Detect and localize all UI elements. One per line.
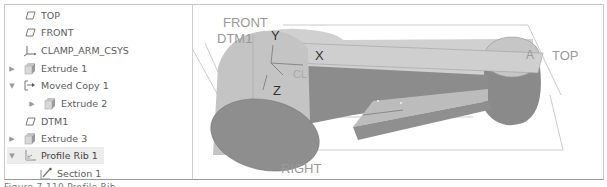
datum-label-dtm1: DTM1 xyxy=(217,31,252,46)
extrude-icon xyxy=(43,97,57,110)
collapse-arrow-icon[interactable]: ▼ xyxy=(7,82,17,90)
tree-item-dtm1[interactable]: DTM1 xyxy=(13,113,68,130)
datum-label-front: FRONT xyxy=(223,15,268,30)
tree-item-extrude-3[interactable]: ▶ Extrude 3 xyxy=(7,130,87,147)
datum-label-top: TOP xyxy=(552,48,579,63)
window-frame: TOP FRONT CLAMP_ARM_CSYS ▶ Extrude 1 ▼ xyxy=(4,4,604,180)
csys-axis-z-label: Z xyxy=(273,83,281,98)
csys-axis-x-label: X xyxy=(315,48,324,63)
model-tree: TOP FRONT CLAMP_ARM_CSYS ▶ Extrude 1 ▼ xyxy=(5,5,193,179)
tree-item-moved-copy-1[interactable]: ▼ Moved Copy 1 xyxy=(7,77,109,94)
expand-arrow-icon[interactable]: ▶ xyxy=(27,100,37,108)
figure-caption: Figure 7-110 Profile Rib xyxy=(4,180,116,187)
csys-axis-y-label: Y xyxy=(271,28,280,43)
tree-item-label: Profile Rib 1 xyxy=(41,150,98,161)
tree-item-label: TOP xyxy=(41,10,60,21)
tree-item-label: Extrude 1 xyxy=(41,63,87,74)
tree-item-label: Section 1 xyxy=(57,168,101,179)
sketch-section-icon xyxy=(39,167,53,179)
axis-label-a: A xyxy=(526,48,534,62)
tree-item-extrude-2[interactable]: ▶ Extrude 2 xyxy=(27,95,107,112)
tree-item-label: Moved Copy 1 xyxy=(41,80,109,91)
tree-item-clamp-arm-csys[interactable]: CLAMP_ARM_CSYS xyxy=(13,42,129,59)
extrude-icon xyxy=(23,132,37,145)
tree-item-label: FRONT xyxy=(41,27,73,38)
extrude-icon xyxy=(23,62,37,75)
tree-item-extrude-1[interactable]: ▶ Extrude 1 xyxy=(7,60,87,77)
datum-plane-icon xyxy=(23,115,37,128)
tree-item-label: Extrude 2 xyxy=(61,98,107,109)
tree-item-profile-rib-1[interactable]: ▼ Profile Rib 1 xyxy=(7,147,104,164)
datum-plane-icon xyxy=(23,26,37,39)
datum-plane-icon xyxy=(23,9,37,22)
datum-label-right: RIGHT xyxy=(281,161,322,176)
graphics-viewport[interactable]: FRONT DTM1 Y X Z CL A TOP RIGHT xyxy=(193,5,603,179)
tree-item-section-1[interactable]: Section 1 xyxy=(39,165,101,179)
tree-item-label: CLAMP_ARM_CSYS xyxy=(41,45,129,56)
tree-item-top[interactable]: TOP xyxy=(13,7,60,24)
coordinate-system-icon xyxy=(23,44,37,57)
collapse-arrow-icon[interactable]: ▼ xyxy=(7,152,17,160)
clamp-arm-model: FRONT DTM1 Y X Z CL A TOP RIGHT xyxy=(193,5,603,179)
csys-name-label: CL xyxy=(293,68,307,80)
tree-item-label: Extrude 3 xyxy=(41,133,87,144)
tree-item-front[interactable]: FRONT xyxy=(13,24,73,41)
expand-arrow-icon[interactable]: ▶ xyxy=(7,65,17,73)
tree-item-label: DTM1 xyxy=(41,116,68,127)
moved-copy-icon xyxy=(23,79,37,92)
profile-rib-icon xyxy=(23,149,37,162)
expand-arrow-icon[interactable]: ▶ xyxy=(7,135,17,143)
